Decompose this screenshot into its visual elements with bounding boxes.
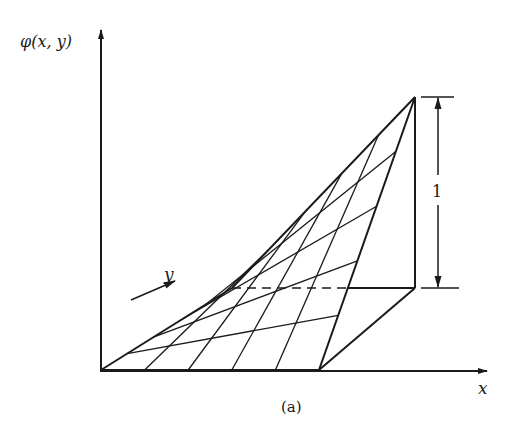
ruling-constant-y [153,261,357,337]
surface-plot-figure: φ(x, y) x y 1 (a) [0,0,519,438]
ruling-constant-x [101,288,232,370]
figure-caption: (a) [281,398,302,416]
surface-diagram [0,0,519,438]
y-axis-label: y [164,264,174,284]
ruling-constant-x [275,135,378,370]
dimension-label: 1 [432,180,442,203]
ruling-constant-x [188,212,305,370]
phi-axis-label: φ(x, y) [20,32,72,51]
x-axis-label: x [478,378,488,398]
ruling-constant-y [180,206,377,321]
